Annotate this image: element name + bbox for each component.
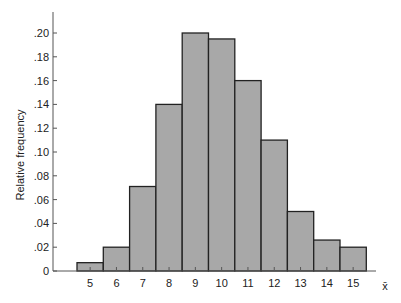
histogram-bar: [235, 81, 261, 271]
y-tick-label: .10: [34, 146, 49, 158]
histogram-bar: [314, 240, 340, 271]
x-tick-label: 8: [166, 277, 172, 289]
x-tick-label: 10: [216, 277, 228, 289]
x-tick-label: 14: [321, 277, 333, 289]
x-tick-label: 15: [347, 277, 359, 289]
histogram-bar: [130, 187, 156, 271]
x-tick-label: 9: [192, 277, 198, 289]
x-tick-label: 7: [140, 277, 146, 289]
y-axis-title: Relative frequency: [14, 109, 26, 201]
x-tick-label: 5: [87, 277, 93, 289]
x-tick-label: 12: [268, 277, 280, 289]
y-tick-label: .04: [34, 217, 49, 229]
histogram-bar: [287, 212, 313, 272]
y-tick-label: .06: [34, 194, 49, 206]
histogram-bar: [156, 104, 182, 271]
histogram-bar: [182, 33, 208, 271]
histogram-bar: [209, 39, 235, 271]
histogram-chart: 0.02.04.06.08.10.12.14.16.18.20 56789101…: [0, 0, 401, 303]
y-tick-label: .18: [34, 51, 49, 63]
bars-group: [77, 33, 366, 271]
y-tick-label: .16: [34, 75, 49, 87]
y-tick-label: 0: [43, 265, 49, 277]
x-tick-label: 11: [242, 277, 253, 289]
y-tick-label: .12: [34, 122, 49, 134]
x-tick-label: 13: [294, 277, 306, 289]
histogram-bar: [261, 140, 287, 271]
y-ticks: 0.02.04.06.08.10.12.14.16.18.20: [34, 27, 57, 277]
y-tick-label: .08: [34, 170, 49, 182]
x-tick-label: 6: [113, 277, 119, 289]
y-tick-label: .02: [34, 241, 49, 253]
y-tick-label: .14: [34, 98, 49, 110]
y-tick-label: .20: [34, 27, 49, 39]
x-axis-title: x̄: [382, 280, 388, 292]
